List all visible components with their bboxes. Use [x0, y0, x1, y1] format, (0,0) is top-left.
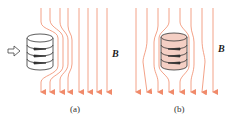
diagram-canvas	[0, 0, 229, 126]
field-label-b: B	[218, 43, 225, 54]
coil-b	[161, 33, 187, 70]
panel-label-b: (b)	[174, 104, 185, 114]
coil-a	[27, 34, 53, 70]
push-arrow-icon	[8, 46, 20, 56]
panel-label-a: (a)	[70, 104, 80, 114]
field-label-a: B	[112, 48, 119, 59]
